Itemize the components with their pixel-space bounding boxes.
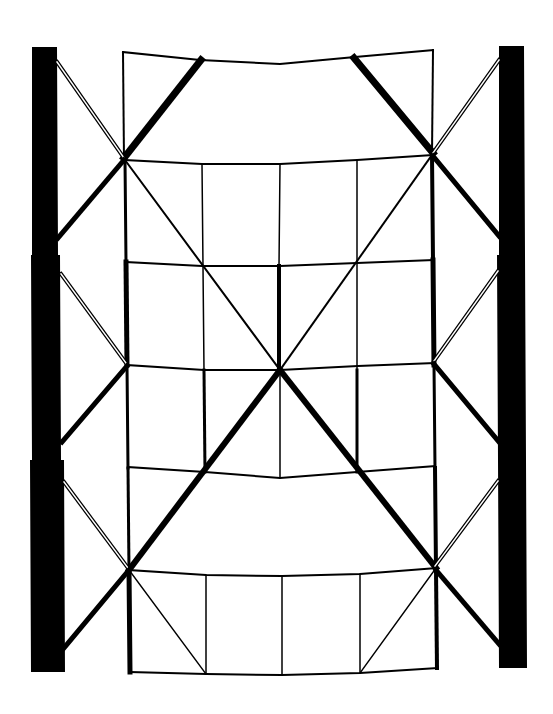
interior-verticals (202, 160, 360, 675)
right-outer-column (497, 46, 527, 668)
left-outer-column (30, 47, 65, 672)
diagram-canvas (0, 0, 553, 714)
right-bay-bracing (433, 60, 499, 644)
truss-frame-diagram (0, 0, 553, 714)
left-bay-bracing (57, 62, 129, 648)
